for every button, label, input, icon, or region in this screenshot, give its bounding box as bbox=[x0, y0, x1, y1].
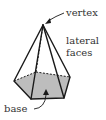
lateral-faces-label-line2: faces bbox=[66, 47, 92, 58]
vertex-label: vertex bbox=[66, 7, 98, 18]
pyramid-diagram bbox=[0, 0, 106, 120]
base-label: base bbox=[4, 103, 27, 114]
vertex-arrow bbox=[45, 13, 64, 24]
lateral-faces-label-line1: lateral bbox=[66, 35, 99, 46]
